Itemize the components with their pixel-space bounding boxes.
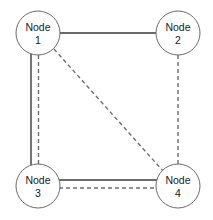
node-2-number: 2 [175, 34, 181, 46]
node-4-number: 4 [175, 187, 181, 199]
node-1-label: Node [25, 21, 50, 33]
edge-layer [31, 33, 178, 188]
edge-node1-node4-dashed[interactable] [54, 49, 163, 171]
node-2[interactable]: Node 2 [156, 11, 200, 55]
node-1[interactable]: Node 1 [16, 11, 60, 55]
node-3-label: Node [25, 174, 50, 186]
node-1-number: 1 [35, 34, 41, 46]
network-diagram: Node 1 Node 2 Node 3 Node 4 [0, 0, 213, 220]
node-layer: Node 1 Node 2 Node 3 Node 4 [16, 11, 200, 208]
node-3[interactable]: Node 3 [16, 164, 60, 208]
node-3-number: 3 [35, 187, 41, 199]
node-2-label: Node [165, 21, 190, 33]
node-4[interactable]: Node 4 [156, 164, 200, 208]
graph-canvas: Node 1 Node 2 Node 3 Node 4 [0, 0, 213, 220]
node-4-label: Node [165, 174, 190, 186]
